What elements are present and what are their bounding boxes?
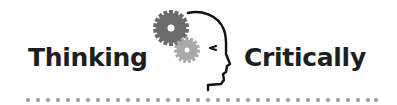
dotted-divider: [24, 96, 380, 104]
small-gear-icon: [174, 37, 200, 63]
head-with-gears-icon: [148, 4, 238, 94]
eye-mark: [210, 46, 216, 50]
title-word-critically: Critically: [244, 45, 366, 70]
title-word-thinking: Thinking: [28, 45, 148, 70]
thinking-critically-banner: Thinking: [0, 0, 397, 105]
